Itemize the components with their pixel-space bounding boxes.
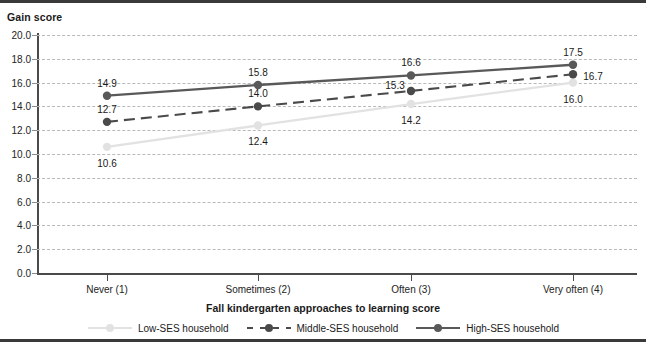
- chart-figure: Gain score Fall kindergarten approaches …: [0, 0, 646, 342]
- y-axis-tick-label: 20.0: [0, 30, 31, 41]
- x-axis-title: Fall kindergarten approaches to learning…: [0, 302, 646, 314]
- x-axis-tick: [258, 274, 259, 281]
- data-point-label: 16.7: [583, 71, 602, 82]
- legend-item[interactable]: Middle-SES household: [246, 322, 399, 334]
- x-axis-tick-label: Never (1): [37, 284, 177, 295]
- chart-legend: Low-SES householdMiddle-SES householdHig…: [0, 322, 646, 334]
- y-axis-tick: [32, 178, 37, 179]
- y-axis-tick-label: 0.0: [0, 268, 31, 279]
- y-axis-tick-label: 4.0: [0, 220, 31, 231]
- gridline: [37, 249, 637, 250]
- plot-area: [37, 35, 637, 273]
- y-axis-tick: [32, 35, 37, 36]
- x-axis-tick: [411, 274, 412, 281]
- y-axis-tick-label: 12.0: [0, 125, 31, 136]
- y-axis-tick: [32, 154, 37, 155]
- y-axis-tick: [32, 83, 37, 84]
- data-point-label: 12.4: [248, 136, 267, 147]
- y-axis-tick: [32, 106, 37, 107]
- gridline: [37, 178, 637, 179]
- data-point-label: 10.6: [97, 157, 116, 168]
- data-point-label: 12.7: [97, 103, 116, 114]
- gridline: [37, 130, 637, 131]
- y-axis-tick-label: 2.0: [0, 244, 31, 255]
- data-point-label: 15.8: [248, 66, 267, 77]
- legend-key-icon: [246, 322, 292, 334]
- y-axis-tick: [32, 225, 37, 226]
- y-axis-tick-label: 8.0: [0, 172, 31, 183]
- x-axis-tick-label: Sometimes (2): [188, 284, 328, 295]
- y-axis-tick-label: 6.0: [0, 196, 31, 207]
- data-point-label: 14.2: [401, 115, 420, 126]
- data-point-label: 16.0: [563, 93, 582, 104]
- x-axis-tick-label: Very often (4): [503, 284, 643, 295]
- x-axis-line: [37, 273, 637, 275]
- y-axis-tick: [32, 59, 37, 60]
- legend-item[interactable]: High-SES household: [415, 322, 559, 334]
- gridline: [37, 154, 637, 155]
- gridline: [37, 35, 637, 36]
- x-axis-tick: [107, 274, 108, 281]
- x-axis-tick: [573, 274, 574, 281]
- legend-label: High-SES household: [466, 323, 559, 334]
- data-point-label: 14.0: [248, 88, 267, 99]
- data-point-label: 17.5: [563, 46, 582, 57]
- gridline: [37, 106, 637, 107]
- legend-key-icon: [415, 322, 461, 334]
- x-axis-tick-label: Often (3): [341, 284, 481, 295]
- y-axis-tick: [32, 202, 37, 203]
- data-point-label: 16.6: [401, 57, 420, 68]
- y-axis-tick: [32, 273, 37, 274]
- y-axis-tick-label: 16.0: [0, 77, 31, 88]
- data-point-label: 14.9: [97, 77, 116, 88]
- legend-key-icon: [87, 322, 133, 334]
- y-axis-tick-label: 14.0: [0, 101, 31, 112]
- legend-item[interactable]: Low-SES household: [87, 322, 229, 334]
- y-axis-tick: [32, 130, 37, 131]
- gridline: [37, 225, 637, 226]
- gridline: [37, 83, 637, 84]
- gridline: [37, 59, 637, 60]
- gridline: [37, 202, 637, 203]
- legend-label: Middle-SES household: [297, 323, 399, 334]
- y-axis-title: Gain score: [7, 11, 62, 23]
- data-point-label: 15.3: [385, 79, 404, 90]
- legend-label: Low-SES household: [138, 323, 229, 334]
- y-axis-tick-label: 18.0: [0, 53, 31, 64]
- y-axis-tick: [32, 249, 37, 250]
- y-axis-tick-label: 10.0: [0, 149, 31, 160]
